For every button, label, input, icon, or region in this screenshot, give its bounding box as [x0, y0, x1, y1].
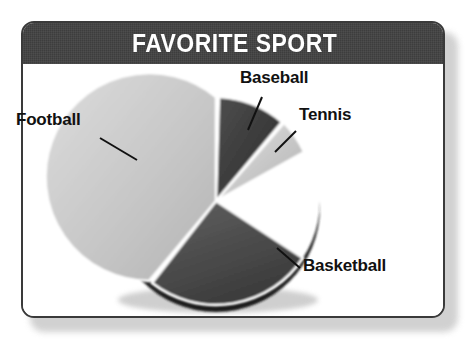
pie-label-football: Football [16, 110, 81, 130]
pie-chart [0, 0, 473, 361]
pie-label-basketball: Basketball [303, 256, 386, 276]
pie-label-tennis: Tennis [299, 105, 351, 125]
pie-label-baseball: Baseball [240, 68, 308, 88]
chart-figure: FAVORITE SPORT [0, 0, 473, 361]
pie-slices [46, 73, 304, 305]
